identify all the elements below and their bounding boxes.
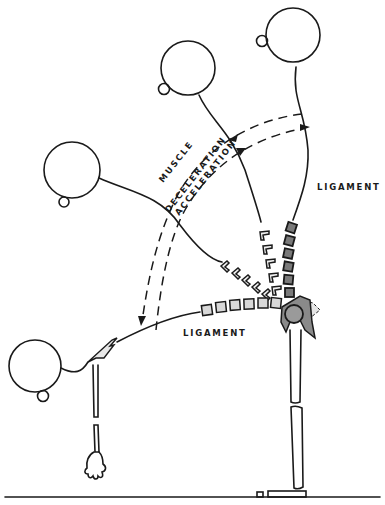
upper-arm bbox=[93, 365, 98, 417]
head-4 bbox=[9, 340, 61, 392]
hip-joint bbox=[285, 305, 303, 323]
foot-heel bbox=[257, 492, 263, 497]
light-segments-4 bbox=[201, 298, 281, 316]
head-1 bbox=[266, 8, 320, 62]
neck-4 bbox=[61, 362, 88, 372]
spine-3 bbox=[99, 178, 222, 262]
label-deceleration: DECELERATION bbox=[163, 134, 228, 214]
light-segments-3 bbox=[221, 261, 270, 300]
lower-leg bbox=[291, 406, 303, 489]
deceleration-arrowhead-down bbox=[138, 316, 146, 326]
label-ligament-lower: LIGAMENT bbox=[183, 328, 247, 338]
head-3 bbox=[44, 142, 100, 198]
spine-1 bbox=[293, 67, 308, 220]
foot-plate bbox=[268, 491, 306, 497]
light-segments-2 bbox=[260, 231, 281, 295]
label-ligament-upper: LIGAMENT bbox=[317, 182, 381, 192]
shoulder bbox=[88, 338, 117, 362]
upper-leg bbox=[290, 330, 301, 403]
biomechanics-diagram: MUSCLE DECELERATION ACCELERATION LIGAMEN… bbox=[0, 0, 385, 505]
hand bbox=[85, 452, 106, 479]
nose-3 bbox=[59, 197, 69, 207]
nose-1 bbox=[257, 36, 268, 47]
nose-4 bbox=[38, 391, 49, 402]
dark-segments bbox=[283, 222, 297, 297]
nose-2 bbox=[159, 84, 170, 95]
forearm bbox=[94, 425, 99, 452]
